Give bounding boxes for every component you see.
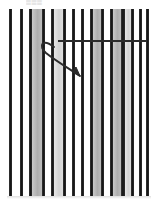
stripe-bar [12,9,20,196]
vertical-stripe-field [0,0,158,208]
stripe-bar [93,9,101,196]
figure-container: ▒▒▒ [0,0,158,208]
stripe-bar [54,9,63,196]
stripe-bar [113,9,121,196]
stripe-bar [149,9,151,196]
bottom-edge-shadow [7,196,151,199]
stripe-bar [32,9,42,196]
